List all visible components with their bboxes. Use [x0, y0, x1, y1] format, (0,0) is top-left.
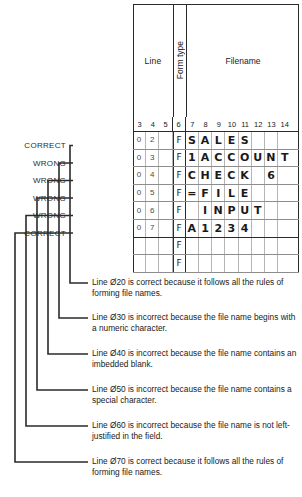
cell-line-c3: 0: [133, 202, 146, 219]
ruler-col-13: 13: [265, 117, 278, 131]
cell-fn-c11: [239, 238, 252, 255]
cell-fn-c12: [252, 132, 265, 149]
cell-fn-c14: [278, 202, 291, 219]
cell-formtype: F: [173, 132, 186, 149]
cell-fn-c14: [278, 220, 291, 237]
table-row: 0 4 F C H E C K 6: [133, 167, 299, 185]
form-header-band: Line Form type Filename: [133, 4, 299, 117]
cell-fn-c7: =: [186, 185, 199, 202]
row-status-label-02: CORRECT: [4, 141, 66, 150]
cell-fn-c7: [186, 238, 199, 255]
ruler-col-14: 14: [278, 117, 291, 131]
leader-row-07: [15, 233, 88, 462]
table-row: 0 2 F S A L E S: [133, 132, 299, 150]
leader-row-05: [37, 198, 88, 390]
cell-fn-c7: S: [186, 132, 199, 149]
row-status-label-04: WRONG: [4, 176, 66, 185]
cell-fn-c10: C: [225, 150, 238, 167]
cell-fn-c9: [212, 238, 225, 255]
ruler-col-10: 10: [225, 117, 238, 131]
cell-fn-c12: U: [252, 150, 265, 167]
cell-fn-c12: [252, 220, 265, 237]
table-row: F: [133, 238, 299, 256]
note-line-020: Line Ø20 is correct because it follows a…: [92, 277, 297, 299]
cell-fn-c10: 3: [225, 220, 238, 237]
note-line-050: Line Ø50 is incorrect because the file n…: [92, 384, 297, 406]
cell-fn-c12: T: [252, 202, 265, 219]
cell-line-c3: [133, 255, 146, 272]
row-status-label-06: WRONG: [4, 211, 66, 220]
cell-formtype: F: [173, 255, 186, 272]
cell-fn-c11: U: [239, 202, 252, 219]
cell-line-c4: 7: [146, 220, 159, 237]
cell-line-c4: 6: [146, 202, 159, 219]
cell-line-c5: [159, 132, 172, 149]
cell-fn-c9: I: [212, 185, 225, 202]
cell-line-c4: [146, 255, 159, 272]
table-row: 0 7 F A 1 2 3 4: [133, 220, 299, 238]
cell-line-c5: [159, 238, 172, 255]
cell-fn-c14: [278, 132, 291, 149]
cell-line-c3: [133, 238, 146, 255]
cell-fn-c14: T: [278, 150, 291, 167]
cell-fn-c13: [265, 238, 278, 255]
cell-line-c3: 0: [133, 132, 146, 149]
cell-line-c4: 4: [146, 167, 159, 184]
cell-fn-c8: H: [199, 167, 212, 184]
cell-fn-c8: A: [199, 150, 212, 167]
cell-fn-c9: N: [212, 202, 225, 219]
cell-fn-c7: [186, 255, 199, 272]
column-number-ruler: 3 4 5 6 7 8 9 10 11 12 13 14: [133, 117, 299, 132]
cell-fn-c10: E: [225, 132, 238, 149]
cell-fn-c10: L: [225, 185, 238, 202]
note-line-060: Line Ø60 is incorrect because the file n…: [92, 420, 297, 442]
cell-line-c3: 0: [133, 167, 146, 184]
table-row: 0 5 F = F I L E: [133, 185, 299, 203]
cell-fn-c8: [199, 238, 212, 255]
row-status-label-07: CORRECT: [4, 229, 66, 238]
cell-fn-c11: 4: [239, 220, 252, 237]
cell-fn-c13: [265, 202, 278, 219]
cell-fn-c11: O: [239, 150, 252, 167]
cell-fn-c12: [252, 185, 265, 202]
header-line: Line: [133, 4, 173, 117]
cell-fn-c11: S: [239, 132, 252, 149]
ruler-col-6: 6: [173, 117, 186, 131]
header-filename: Filename: [187, 4, 299, 117]
cell-fn-c8: A: [199, 132, 212, 149]
ruler-col-3: 3: [133, 117, 146, 131]
cell-fn-c13: [265, 132, 278, 149]
leader-row-02: [70, 146, 88, 284]
leader-row-03: [59, 163, 88, 318]
cell-fn-c12: [252, 167, 265, 184]
ruler-col-4: 4: [146, 117, 159, 131]
ruler-col-12: 12: [252, 117, 265, 131]
cell-line-c3: 0: [133, 220, 146, 237]
cell-fn-c8: 1: [199, 220, 212, 237]
cell-formtype: F: [173, 185, 186, 202]
header-form-type: Form type: [173, 4, 187, 117]
cell-fn-c10: [225, 238, 238, 255]
row-status-label-03: WRONG: [4, 159, 66, 168]
cell-line-c5: [159, 255, 172, 272]
cell-fn-c14: [278, 255, 291, 272]
cell-line-c4: 5: [146, 185, 159, 202]
cell-fn-c13: N: [265, 150, 278, 167]
cell-line-c5: [159, 167, 172, 184]
table-row: F: [133, 255, 299, 273]
cell-fn-c8: F: [199, 185, 212, 202]
cell-fn-c10: P: [225, 202, 238, 219]
cell-formtype: F: [173, 220, 186, 237]
form-grid: 0 2 F S A L E S 0 3 F 1 A C C O U N T: [133, 132, 299, 273]
cell-fn-c9: [212, 255, 225, 272]
ruler-col-9: 9: [212, 117, 225, 131]
cell-fn-c7: A: [186, 220, 199, 237]
cell-line-c4: 2: [146, 132, 159, 149]
ruler-col-8: 8: [199, 117, 212, 131]
cell-formtype: F: [173, 150, 186, 167]
coding-form-table: Line Form type Filename 3 4 5 6 7 8 9 10…: [133, 4, 299, 273]
cell-fn-c13: [265, 220, 278, 237]
cell-fn-c8: [199, 255, 212, 272]
leader-row-04: [48, 181, 88, 355]
cell-line-c4: 3: [146, 150, 159, 167]
